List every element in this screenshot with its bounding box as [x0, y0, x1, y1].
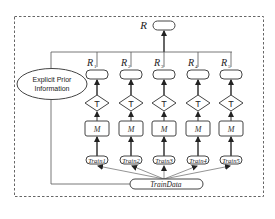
result-label: R — [187, 57, 194, 68]
test-label: T — [228, 99, 234, 109]
result-node — [86, 70, 108, 79]
column-3: R 3 T M Train3 — [152, 52, 176, 164]
result-label: R — [86, 57, 93, 68]
train-data-label: TrainData — [150, 180, 182, 189]
result-node — [153, 70, 175, 79]
column-5: R 5 T M Train5 — [219, 52, 243, 164]
model-label: M — [93, 125, 102, 134]
train-label: Train3 — [155, 157, 173, 164]
result-node — [220, 70, 242, 79]
output-label: R — [139, 19, 147, 31]
test-label: T — [128, 99, 134, 109]
explicit-prior-node — [17, 69, 87, 100]
explicit-prior-label-2: Information — [34, 85, 69, 92]
test-label: T — [195, 99, 201, 109]
explicit-prior-label-1: Explicit Prior — [33, 76, 73, 84]
model-label: M — [227, 125, 236, 134]
result-subscript: 3 — [161, 64, 164, 69]
test-label: T — [94, 99, 100, 109]
column-4: R 4 T M Train4 — [186, 52, 210, 164]
result-label: R — [220, 57, 227, 68]
result-label: R — [153, 57, 160, 68]
result-subscript: 2 — [128, 64, 131, 69]
fan-out-arrows — [98, 166, 230, 179]
ensemble-diagram: R Explicit Prior Information R 1 T M Tra… — [0, 0, 275, 219]
train-label: Train5 — [222, 157, 240, 164]
train-label: Train2 — [122, 157, 140, 164]
result-node — [120, 70, 142, 79]
model-label: M — [194, 125, 203, 134]
result-node — [187, 70, 209, 79]
result-label: R — [120, 57, 127, 68]
model-label: M — [127, 125, 136, 134]
model-label: M — [160, 125, 169, 134]
column-2: R 2 T M Train2 — [119, 52, 143, 164]
output-node — [153, 21, 175, 30]
test-label: T — [161, 99, 167, 109]
result-subscript: 1 — [94, 64, 97, 69]
column-1: R 1 T M Train1 — [85, 52, 109, 164]
train-label: Train1 — [88, 157, 105, 164]
result-subscript: 5 — [228, 64, 231, 69]
result-subscript: 4 — [195, 64, 198, 69]
train-label: Train4 — [189, 157, 207, 164]
